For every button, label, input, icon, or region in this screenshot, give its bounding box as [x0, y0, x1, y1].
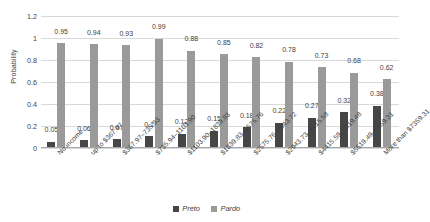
bar-value-label: 0.85 [217, 39, 231, 46]
y-axis-tick-label: 0.4 [12, 100, 37, 109]
legend-item-preto[interactable]: Preto [173, 204, 200, 213]
bar-value-label: 0.88 [185, 35, 199, 42]
x-axis-label-cell: $2575.76–2943.72 [236, 150, 269, 206]
legend-swatch-preto [173, 206, 179, 212]
bar-pardo[interactable] [90, 44, 98, 147]
bar-pardo[interactable] [220, 54, 228, 147]
bar-group: 0.050.95 [41, 16, 74, 147]
bar-value-label: 0.38 [370, 90, 384, 97]
legend-swatch-pardo [211, 206, 217, 212]
x-axis-label-cell: $2943.73–4415.58 [269, 150, 302, 206]
x-axis-label-cell: $5519.49–7359.31 [334, 150, 367, 206]
bar-value-label: 0.68 [347, 57, 361, 64]
bar-pardo[interactable] [318, 67, 326, 147]
bar-value-label: 0.78 [282, 46, 296, 53]
bar-value-label: 0.99 [152, 23, 166, 30]
x-axis-label-cell: $1839.83–2575.76 [204, 150, 237, 206]
bar-preto[interactable] [113, 139, 121, 147]
y-axis-tick-label: 1 [12, 34, 37, 43]
bar-value-label: 0.82 [250, 42, 264, 49]
x-axis-label-cell: $735.94–1103.90 [139, 150, 172, 206]
x-axis-label-cell: More than $7359.31 [366, 150, 399, 206]
x-axis-label-cell: No income [41, 150, 74, 206]
y-axis-tick-label: 0.2 [12, 122, 37, 131]
legend-label-preto: Preto [182, 204, 200, 213]
bar-pardo[interactable] [155, 39, 163, 147]
x-axis-labels: No incomeup to $367.97$367.97–735.93$735… [41, 150, 399, 206]
x-axis-label-cell: $1103.90–1839.83 [171, 150, 204, 206]
bar-pardo[interactable] [285, 62, 293, 147]
legend-label-pardo: Pardo [220, 204, 240, 213]
y-axis-tick-label: 1.2 [12, 12, 37, 21]
bar-value-label: 0.93 [119, 30, 133, 37]
y-axis-tick-label: 0.6 [12, 78, 37, 87]
bar-value-label: 0.27 [305, 102, 319, 109]
x-axis-label-cell: up to $367.97 [74, 150, 107, 206]
bar-value-label: 0.62 [380, 64, 394, 71]
bar-pardo[interactable] [187, 51, 195, 147]
y-axis-tick-label: 0.8 [12, 56, 37, 65]
bar-value-label: 0.22 [272, 107, 286, 114]
bar-value-label: 0.95 [54, 28, 68, 35]
bar-value-label: 0.94 [87, 29, 101, 36]
bar-pardo[interactable] [122, 45, 130, 147]
x-axis-label-cell: $4415.59–5519.48 [301, 150, 334, 206]
bar-value-label: 0.05 [45, 126, 59, 133]
bar-preto[interactable] [47, 142, 55, 147]
bar-pardo[interactable] [57, 43, 65, 147]
y-axis-tick-label: 0 [12, 144, 37, 153]
legend-item-pardo[interactable]: Pardo [211, 204, 240, 213]
x-axis-label-cell: $367.97–735.93 [106, 150, 139, 206]
bar-pardo[interactable] [252, 57, 260, 147]
bar-preto[interactable] [145, 136, 153, 147]
bar-preto[interactable] [80, 140, 88, 147]
bar-value-label: 0.32 [338, 97, 352, 104]
chart-legend: Preto Pardo [0, 204, 413, 213]
bar-value-label: 0.73 [315, 52, 329, 59]
